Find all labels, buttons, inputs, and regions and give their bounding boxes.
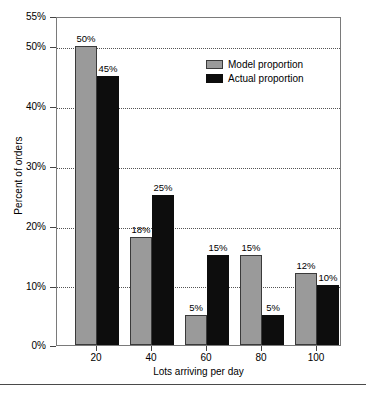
y-tick-label-40: 40%: [0, 102, 46, 112]
bar-actual-80[interactable]: 5%: [262, 315, 284, 345]
y-tick-label-30: 30%: [0, 162, 46, 172]
chart-legend: Model proportion Actual proportion: [206, 58, 304, 86]
y-tick-label-55: 55%: [0, 12, 46, 22]
x-tick-mark-100: [316, 346, 317, 351]
bar-value-label: 15%: [208, 243, 227, 253]
bar-value-label: 5%: [189, 303, 203, 313]
x-tick-mark-20: [96, 346, 97, 351]
y-tick-label-10: 10%: [0, 282, 46, 292]
x-tick-label-60: 60: [184, 352, 228, 364]
y-tick-mark-0: [50, 346, 56, 347]
bar-actual-40[interactable]: 25%: [152, 195, 174, 345]
bar-value-label: 12%: [296, 261, 315, 271]
x-tick-mark-60: [206, 346, 207, 351]
actual-swatch-icon: [206, 74, 223, 83]
bar-model-100[interactable]: 12%: [295, 273, 317, 345]
x-tick-label-20: 20: [74, 352, 118, 364]
bar-group-40: 18% 25%: [130, 18, 174, 345]
bar-actual-60[interactable]: 15%: [207, 255, 229, 345]
footer-divider: [0, 384, 366, 385]
bar-model-20[interactable]: 50%: [75, 46, 97, 345]
legend-label: Model proportion: [228, 58, 303, 71]
bar-model-80[interactable]: 15%: [240, 255, 262, 345]
bar-actual-20[interactable]: 45%: [97, 76, 119, 345]
model-swatch-icon: [206, 60, 223, 69]
x-tick-mark-40: [151, 346, 152, 351]
bar-chart-figure: Percent of orders 55% 50% 40% 30% 20% 10…: [0, 0, 366, 393]
bar-value-label: 15%: [241, 243, 260, 253]
x-tick-label-40: 40: [129, 352, 173, 364]
legend-label: Actual proportion: [228, 72, 304, 85]
legend-item-model[interactable]: Model proportion: [206, 58, 304, 71]
bar-value-label: 18%: [131, 225, 150, 235]
bar-group-20: 50% 45%: [75, 18, 119, 345]
bar-value-label: 45%: [98, 64, 117, 74]
x-tick-label-80: 80: [239, 352, 283, 364]
bar-actual-100[interactable]: 10%: [317, 285, 339, 345]
y-tick-label-50: 50%: [0, 42, 46, 52]
bar-value-label: 25%: [153, 183, 172, 193]
bar-model-40[interactable]: 18%: [130, 237, 152, 345]
bar-model-60[interactable]: 5%: [185, 315, 207, 345]
y-tick-label-20: 20%: [0, 222, 46, 232]
bar-value-label: 10%: [318, 273, 337, 283]
bar-value-label: 50%: [76, 34, 95, 44]
legend-item-actual[interactable]: Actual proportion: [206, 72, 304, 85]
x-tick-label-100: 100: [294, 352, 338, 364]
x-axis-title: Lots arriving per day: [56, 366, 341, 377]
y-tick-label-0: 0%: [0, 341, 46, 351]
x-tick-mark-80: [261, 346, 262, 351]
bar-value-label: 5%: [266, 303, 280, 313]
